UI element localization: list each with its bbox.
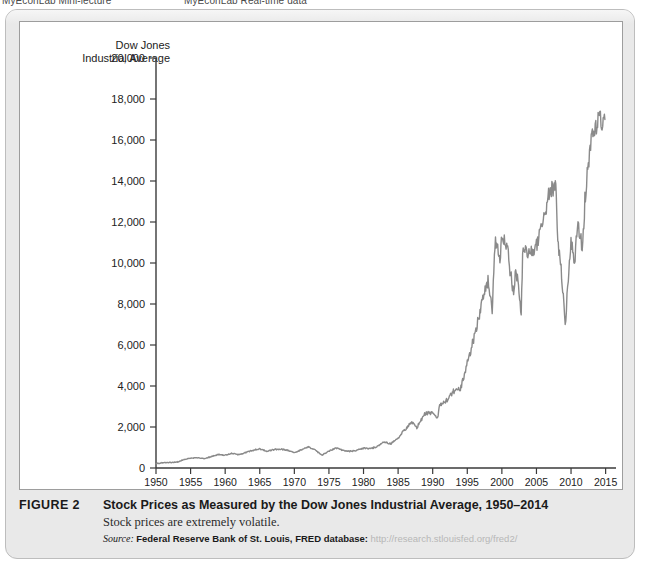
y-tick-label: 16,000 (111, 134, 145, 146)
chart-svg: 02,0004,0006,0008,00010,00012,00014,0001… (20, 22, 624, 491)
x-tick-label: 1990 (421, 476, 445, 488)
x-tick-label: 1970 (283, 476, 307, 488)
figure-subtitle: Stock prices are extremely volatile. (103, 515, 623, 530)
x-tick-label: 1955 (179, 476, 203, 488)
source-url-link[interactable]: http://research.stlouisfed.org/fred2/ (371, 533, 518, 544)
y-tick-label: 4,000 (117, 380, 145, 392)
y-tick-label: 14,000 (111, 175, 145, 187)
myeconlab-realtime-data-tag[interactable]: MyEconLab Real-time data (184, 0, 307, 6)
figure-source: Source: Federal Reserve Bank of St. Loui… (103, 533, 623, 544)
myeconlab-mini-lecture-label: MyEconLab Mini-lecture (2, 0, 111, 6)
y-tick-label: 2,000 (117, 421, 145, 433)
y-tick-label: 6,000 (117, 339, 145, 351)
x-tick-label: 1975 (317, 476, 341, 488)
source-name: Federal Reserve Bank of St. Louis, FRED … (136, 533, 368, 544)
myeconlab-realtime-data-label: MyEconLab Real-time data (184, 0, 307, 6)
y-tick-label: 18,000 (111, 93, 145, 105)
x-tick-label: 2005 (525, 476, 549, 488)
y-tick-label: 12,000 (111, 216, 145, 228)
line-chart: Dow Jones Industrial Average 02,0004,000… (20, 22, 624, 491)
x-axis-ticks: 1950195519601965197019751980198519901995… (144, 468, 617, 488)
x-tick-label: 1995 (456, 476, 480, 488)
figure-number: FIGURE 2 (19, 498, 103, 512)
x-tick-label: 1985 (386, 476, 410, 488)
figure-title: Stock Prices as Measured by the Dow Jone… (103, 498, 548, 512)
x-tick-label: 2015 (594, 476, 618, 488)
y-tick-label: 10,000 (111, 257, 145, 269)
x-tick-label: 1950 (144, 476, 168, 488)
x-tick-label: 1965 (248, 476, 272, 488)
dow-jones-series-line (156, 111, 605, 464)
caption-title-row: FIGURE 2 Stock Prices as Measured by the… (19, 498, 623, 512)
figure-container: Dow Jones Industrial Average 02,0004,000… (5, 9, 635, 559)
x-tick-label: 1960 (213, 476, 237, 488)
chart-panel: Dow Jones Industrial Average 02,0004,000… (19, 21, 623, 490)
x-tick-label: 2000 (490, 476, 514, 488)
x-tick-label: 1980 (352, 476, 376, 488)
source-word: Source: (103, 533, 134, 544)
y-axis-ticks: 02,0004,0006,0008,00010,00012,00014,0001… (111, 52, 156, 474)
myeconlab-mini-lecture-tag[interactable]: MyEconLab Mini-lecture (2, 0, 111, 6)
x-tick-label: 2010 (559, 476, 583, 488)
y-tick-label: 0 (139, 462, 145, 474)
figure-caption: FIGURE 2 Stock Prices as Measured by the… (19, 498, 623, 544)
y-tick-label: 20,000 (111, 52, 145, 64)
y-tick-label: 8,000 (117, 298, 145, 310)
